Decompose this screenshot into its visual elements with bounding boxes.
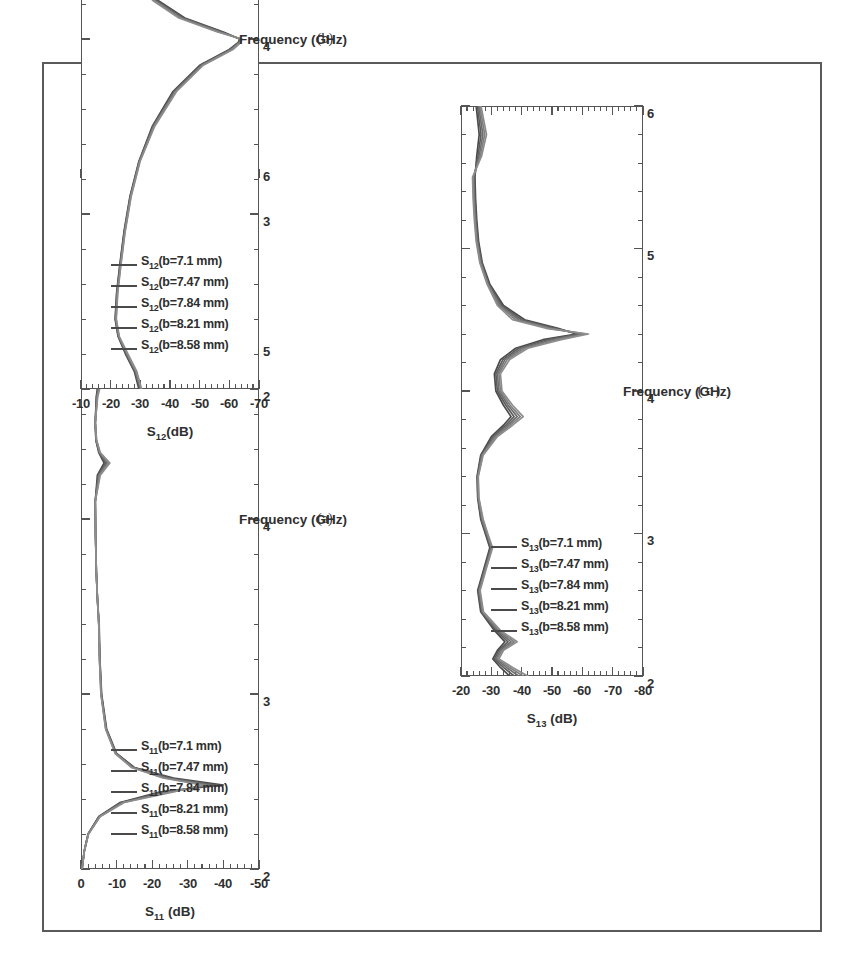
legend-swatch-icon bbox=[111, 285, 137, 287]
legend-swatch-icon bbox=[111, 327, 137, 329]
legend-swatch-icon bbox=[491, 567, 517, 569]
legend-label: S13(b=7.84 mm) bbox=[521, 578, 608, 595]
legend-swatch-icon bbox=[491, 546, 517, 548]
panel-b-s12: 23456-10-20-30-40-50-60-70S12(b=7.1 mm)S… bbox=[59, 0, 349, 429]
legend-swatch-icon bbox=[491, 609, 517, 611]
legend-label: S12(b=7.84 mm) bbox=[141, 296, 228, 313]
legend-label: S11(b=8.58 mm) bbox=[141, 823, 228, 840]
y-axis-title: S11 (dB) bbox=[145, 904, 195, 922]
subplot-caption-c: ( c ) bbox=[698, 383, 721, 399]
y-axis-title: S13 (dB) bbox=[527, 711, 577, 729]
panel-b-inner: 23456-10-20-30-40-50-60-70S12(b=7.1 mm)S… bbox=[59, 0, 349, 429]
legend-swatch-icon bbox=[491, 588, 517, 590]
legend-label: S11(b=7.1 mm) bbox=[141, 739, 221, 756]
legend-label: S13(b=8.58 mm) bbox=[521, 620, 608, 637]
legend-swatch-icon bbox=[111, 791, 137, 793]
legend-swatch-icon bbox=[111, 812, 137, 814]
legend-label: S11(b=8.21 mm) bbox=[141, 802, 228, 819]
subplot-caption-a: (a) bbox=[317, 511, 333, 527]
legend-label: S13(b=7.1 mm) bbox=[521, 536, 602, 553]
subplot-caption-b: (b) bbox=[317, 31, 333, 47]
legend-label: S12(b=7.1 mm) bbox=[141, 254, 222, 271]
legend-label: S13(b=8.21 mm) bbox=[521, 599, 608, 616]
legend-label: S12(b=7.47 mm) bbox=[141, 275, 228, 292]
panel-c-inner: 23456-20-30-40-50-60-70-80S13(b=7.1 mm)S… bbox=[439, 56, 734, 716]
legend-swatch-icon bbox=[111, 749, 137, 751]
legend-swatch-icon bbox=[111, 770, 137, 772]
legend-label: S12(b=8.21 mm) bbox=[141, 317, 228, 334]
legend-swatch-icon bbox=[111, 306, 137, 308]
legend-swatch-icon bbox=[111, 264, 137, 266]
figure-frame: 234560-10-20-30-40-50S11(b=7.1 mm)S11(b=… bbox=[42, 62, 822, 932]
legend-label: S12(b=8.58 mm) bbox=[141, 338, 228, 355]
legend-swatch-icon bbox=[111, 348, 137, 350]
legend-label: S11(b=7.84 mm) bbox=[141, 781, 228, 798]
panel-c-s13: 23456-20-30-40-50-60-70-80S13(b=7.1 mm)S… bbox=[439, 56, 734, 716]
legend-swatch-icon bbox=[491, 630, 517, 632]
y-axis-title: S12(dB) bbox=[147, 424, 194, 442]
legend-label: S11(b=7.47 mm) bbox=[141, 760, 228, 777]
legend-swatch-icon bbox=[111, 833, 137, 835]
series-layer-b bbox=[59, 0, 349, 429]
legend-label: S13(b=7.47 mm) bbox=[521, 557, 608, 574]
